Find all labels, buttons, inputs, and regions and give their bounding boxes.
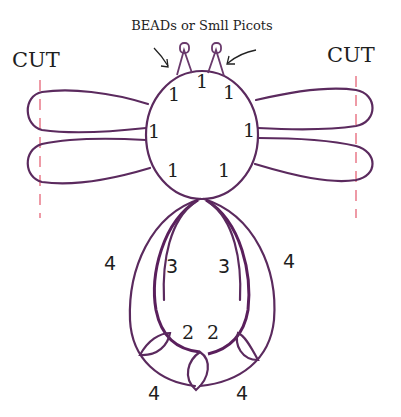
body-inner-chain [155,200,249,354]
ring-count-bottom-right: 1 [218,159,230,181]
title-label: BEADs or Smll Picots [131,18,272,33]
tatting-pattern-diagram: BEADs or Smll Picots CUT CUT 1 1 1 1 1 [0,0,401,417]
ring-count-bottom-left: 1 [167,159,179,181]
bottom-count-right: 4 [236,382,248,404]
ring-count-left: 1 [148,120,160,142]
arrow-left-icon [154,48,168,67]
bottom-count-left: 4 [148,382,160,404]
arrow-right-icon [227,50,256,64]
body-outer-chain [130,199,275,386]
cut-label-left: CUT [12,48,60,72]
inner-bottom-count-left: 2 [182,321,194,343]
left-wings [28,91,150,184]
ring-count-top-right: 1 [223,81,235,103]
ring-count-top: 1 [196,70,208,92]
ring-count-top-left: 1 [168,83,180,105]
ring-count-right: 1 [243,119,255,141]
inner-bottom-count-right: 2 [207,321,219,343]
right-wings [255,89,373,181]
inner-count-left: 3 [166,255,178,277]
outer-count-left: 4 [104,252,116,274]
cut-label-right: CUT [327,43,375,67]
inner-count-right: 3 [218,255,230,277]
outer-count-right: 4 [283,250,295,272]
